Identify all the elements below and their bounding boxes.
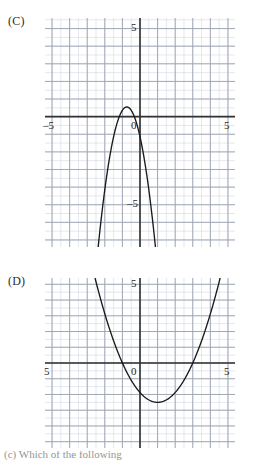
- panel-c-ytick-bottom: –5: [127, 197, 138, 209]
- panel-c-plot: [45, 18, 235, 247]
- plot-svg: [45, 278, 235, 448]
- panel-c-label: (C): [8, 14, 25, 29]
- panel-d-xtick-left: 5: [44, 365, 50, 377]
- panel-d-ytick-top: 5: [131, 277, 137, 289]
- caption-strip: (c) Which of the following: [0, 451, 258, 465]
- panel-c-origin-label: 0: [131, 119, 137, 131]
- panel-d-origin-label: 0: [131, 365, 137, 377]
- panel-c-ytick-top: 5: [131, 21, 137, 33]
- axes: [45, 278, 235, 448]
- panel-d-xtick-right: 5: [224, 365, 230, 377]
- panel-d-plot: [45, 278, 235, 448]
- plot-svg: [45, 18, 235, 247]
- panel-d-label: (D): [8, 274, 25, 289]
- axes: [45, 18, 235, 247]
- panel-c-xtick-right: 5: [224, 119, 230, 131]
- caption-text: (c) Which of the following: [4, 451, 122, 460]
- panel-c-xtick-left: –5: [43, 119, 54, 131]
